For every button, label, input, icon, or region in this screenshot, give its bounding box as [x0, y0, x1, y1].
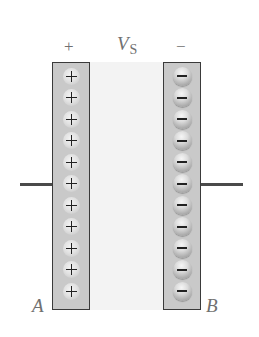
negative-charge	[173, 239, 192, 258]
negative-charge	[173, 131, 192, 150]
plus-icon	[66, 135, 77, 146]
positive-charge	[63, 261, 80, 278]
source-voltage-label: VS	[117, 34, 137, 53]
plus-icon	[66, 157, 77, 168]
negative-terminal-label: −	[176, 38, 186, 55]
negative-charge	[173, 217, 192, 236]
voltage-symbol: V	[117, 33, 129, 54]
negative-charge	[173, 67, 192, 86]
minus-icon	[177, 75, 187, 77]
plate-a	[52, 62, 90, 310]
minus-icon	[177, 226, 187, 228]
plus-icon	[66, 200, 77, 211]
plus-icon	[66, 178, 77, 189]
positive-charge	[63, 218, 80, 235]
negative-charge	[173, 153, 192, 172]
positive-charge	[63, 89, 80, 106]
negative-charge	[173, 174, 192, 193]
positive-charge	[63, 240, 80, 257]
capacitor-diagram: + VS − A B	[0, 0, 259, 337]
negative-charge	[173, 110, 192, 129]
plus-icon	[66, 221, 77, 232]
plus-icon	[66, 92, 77, 103]
minus-icon	[177, 140, 187, 142]
plate-b	[163, 62, 201, 310]
plus-icon	[66, 243, 77, 254]
positive-charge	[63, 175, 80, 192]
negative-charge	[173, 196, 192, 215]
positive-charge	[63, 154, 80, 171]
minus-icon	[177, 118, 187, 120]
negative-charge	[173, 88, 192, 107]
dielectric-gap	[90, 62, 163, 310]
lead-wire-b	[201, 183, 243, 186]
plus-icon	[66, 286, 77, 297]
negative-charge	[173, 260, 192, 279]
minus-icon	[177, 290, 187, 292]
plus-icon	[66, 71, 77, 82]
minus-icon	[177, 161, 187, 163]
negative-charge	[173, 282, 192, 301]
positive-charge	[63, 132, 80, 149]
plate-b-label: B	[206, 296, 218, 315]
minus-icon	[177, 204, 187, 206]
positive-charge	[63, 111, 80, 128]
positive-terminal-label: +	[64, 38, 74, 55]
voltage-subscript: S	[130, 42, 138, 57]
minus-icon	[177, 97, 187, 99]
minus-icon	[177, 247, 187, 249]
lead-wire-a	[20, 183, 52, 186]
minus-icon	[177, 183, 187, 185]
plus-icon	[66, 114, 77, 125]
minus-icon	[177, 269, 187, 271]
plate-a-label: A	[32, 296, 44, 315]
positive-charge	[63, 68, 80, 85]
positive-charge	[63, 283, 80, 300]
positive-charge	[63, 197, 80, 214]
plus-icon	[66, 264, 77, 275]
